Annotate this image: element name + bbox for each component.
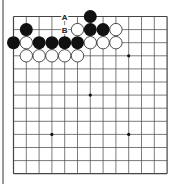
star-point	[127, 133, 130, 136]
white-stone	[71, 23, 83, 35]
black-stone	[97, 23, 110, 36]
point-label-b: B	[62, 26, 68, 35]
black-stone	[71, 36, 84, 49]
black-stone	[7, 36, 20, 49]
star-point	[127, 54, 130, 57]
star-point	[50, 133, 53, 136]
black-stone	[84, 23, 97, 36]
white-stone	[97, 37, 109, 49]
black-stone	[84, 10, 97, 23]
white-stone	[71, 50, 83, 62]
star-point	[89, 94, 92, 97]
white-stone	[33, 50, 45, 62]
white-stone	[84, 37, 96, 49]
black-stone	[33, 36, 46, 49]
white-stone	[20, 50, 32, 62]
black-stone	[20, 23, 33, 36]
black-stone	[58, 36, 71, 49]
white-stone	[58, 50, 70, 62]
white-stone	[46, 50, 58, 62]
go-board: AB	[0, 0, 175, 184]
black-stone	[45, 36, 58, 49]
point-label-a: A	[62, 13, 68, 22]
white-stone	[20, 37, 32, 49]
white-stone	[110, 23, 122, 35]
white-stone	[110, 37, 122, 49]
